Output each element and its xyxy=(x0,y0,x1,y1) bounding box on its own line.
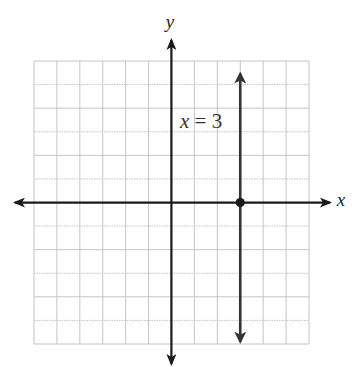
coordinate-plane: y x x = 3 xyxy=(0,0,352,367)
y-axis-label: y xyxy=(164,11,175,32)
point-3-0 xyxy=(236,198,245,207)
line-label: x = 3 xyxy=(179,109,222,133)
line-label-value: = 3 xyxy=(189,109,222,133)
graph-figure: y x x = 3 xyxy=(0,0,352,367)
x-axis-label: x xyxy=(336,189,346,210)
